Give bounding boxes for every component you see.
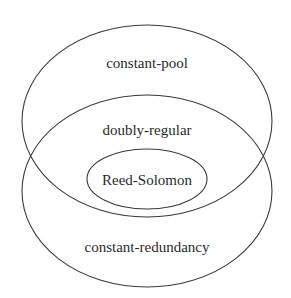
doubly-regular-label: doubly-regular	[102, 122, 191, 138]
constant-pool-ellipse	[22, 25, 272, 217]
venn-diagram: constant-pool doubly-regular Reed-Solomo…	[0, 0, 291, 298]
reed-solomon-label: Reed-Solomon	[102, 172, 192, 188]
constant-pool-label: constant-pool	[106, 55, 188, 71]
constant-redundancy-label: constant-redundancy	[85, 239, 210, 255]
